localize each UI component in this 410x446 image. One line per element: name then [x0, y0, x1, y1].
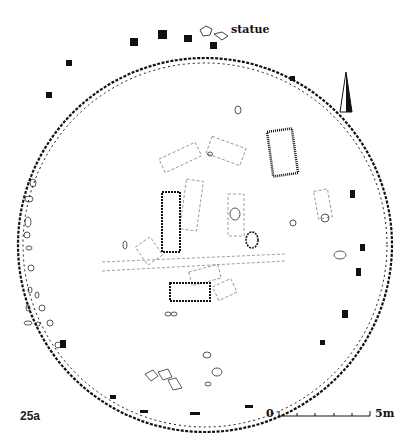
upright-stones — [46, 30, 365, 415]
site-plan — [0, 0, 410, 446]
dashed-features — [102, 136, 332, 300]
west-stones — [24, 179, 61, 348]
statue-drawing — [200, 26, 228, 40]
scale-end-label: 5m — [375, 407, 394, 420]
stone-clusters — [123, 106, 346, 390]
figure-id-label: 25a — [20, 409, 40, 423]
statue-label: statue — [231, 23, 269, 36]
scale-start-label: 0 — [266, 407, 274, 420]
scale-bar — [279, 411, 370, 416]
north-arrow-icon — [340, 72, 352, 112]
stone-circle — [18, 58, 392, 432]
